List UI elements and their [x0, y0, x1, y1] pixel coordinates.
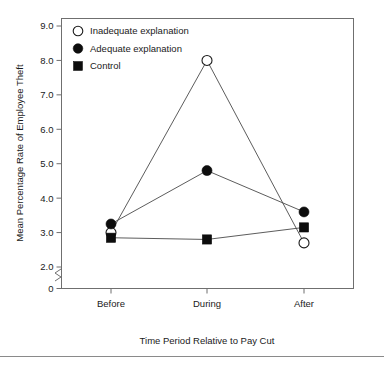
y-axis-title: Mean Percentage Rate of Employee Theft	[14, 64, 25, 242]
legend-marker-open-circle	[73, 26, 83, 36]
y-tick-label: 5.0	[40, 158, 53, 169]
y-tick-label: 2.0	[40, 261, 53, 272]
footer-divider	[0, 356, 384, 357]
legend-label: Adequate explanation	[90, 43, 182, 54]
employee-theft-line-chart: 9.08.07.06.05.04.03.02.00 BeforeDuringAf…	[0, 0, 384, 365]
x-axis-tick-labels: BeforeDuringAfter	[97, 298, 314, 309]
legend-marker-filled-square	[74, 62, 83, 71]
y-axis-break-icon	[55, 269, 61, 281]
data-point-filled-square	[202, 235, 211, 244]
y-tick-label: 6.0	[40, 124, 53, 135]
y-tick-label: 0	[48, 283, 53, 294]
y-tick-label: 9.0	[40, 20, 53, 31]
data-point-open-circle	[202, 55, 212, 65]
series-line-filled-circle	[111, 171, 304, 224]
y-tick-label: 4.0	[40, 193, 53, 204]
y-tick-label: 7.0	[40, 89, 53, 100]
x-tick-label: After	[294, 298, 314, 309]
legend-marker-filled-circle	[73, 44, 83, 54]
series-markers-group	[106, 55, 309, 247]
data-point-open-circle	[299, 238, 309, 248]
legend-label: Control	[90, 60, 121, 71]
data-point-filled-square	[106, 233, 115, 242]
series-lines-group	[111, 60, 304, 242]
x-tick-label: Before	[97, 298, 125, 309]
chart-legend: Inadequate explanationAdequate explanati…	[73, 25, 189, 71]
y-axis-tick-labels: 9.08.07.06.05.04.03.02.00	[40, 20, 53, 294]
series-line-open-circle	[111, 60, 304, 242]
y-axis-ticks	[57, 19, 62, 289]
x-axis-title: Time Period Relative to Pay Cut	[140, 335, 275, 346]
data-point-filled-circle	[106, 219, 116, 229]
x-axis-ticks	[111, 289, 304, 294]
x-tick-label: During	[193, 298, 221, 309]
legend-label: Inadequate explanation	[90, 25, 189, 36]
figure-container: 9.08.07.06.05.04.03.02.00 BeforeDuringAf…	[0, 0, 384, 365]
data-point-filled-circle	[202, 166, 212, 176]
y-tick-label: 8.0	[40, 55, 53, 66]
data-point-filled-square	[299, 223, 308, 232]
y-tick-label: 3.0	[40, 227, 53, 238]
data-point-filled-circle	[299, 207, 309, 217]
